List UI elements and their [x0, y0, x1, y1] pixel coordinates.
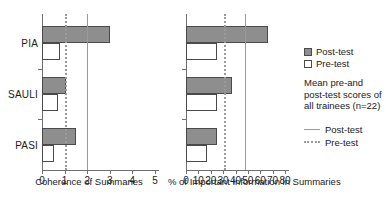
legend-swatch-pre-test-icon: [304, 60, 312, 68]
x-axis-tick: [87, 170, 88, 174]
x-axis-tick: [65, 170, 66, 174]
x-axis-tick: [223, 170, 224, 174]
bar-sauli-pre-test: [186, 94, 217, 111]
x-axis-tick: [132, 170, 133, 174]
legend-line-item-post-test: Post-test: [304, 124, 386, 135]
plot-area-left: 012345: [42, 18, 155, 170]
x-axis-tick: [186, 170, 187, 174]
legend-line-item-pre-test: Pre-test: [304, 137, 386, 148]
legend-dotted-line-icon: [304, 141, 320, 143]
legend-note: Mean pre-and post-test scores of all tra…: [304, 77, 386, 112]
legend-item-post-test: Post-test: [304, 46, 386, 57]
x-axis-title-left: Coherence of Summaries: [0, 176, 178, 187]
x-axis-tick: [110, 170, 111, 174]
legend-reference-lines: Post-test Pre-test: [304, 124, 386, 148]
reference-line-solid: [87, 14, 88, 170]
bar-pasi-post-test: [186, 128, 217, 145]
legend-line-label-post-test: Post-test: [325, 124, 363, 135]
bar-sauli-post-test: [42, 77, 66, 94]
category-label-sauli: SAULI: [0, 89, 38, 100]
y-axis-tick: [38, 119, 42, 120]
bar-pia-pre-test: [42, 43, 60, 60]
bar-pasi-post-test: [42, 128, 76, 145]
category-label-pasi: PASI: [0, 140, 38, 151]
x-axis-tick: [260, 170, 261, 174]
x-axis-tick: [236, 170, 237, 174]
figure: PIA SAULI PASI 012345 Coherence of Summa…: [0, 0, 386, 218]
bar-pia-pre-test: [186, 43, 217, 60]
legend-item-pre-test: Pre-test: [304, 58, 386, 69]
x-axis-tick: [248, 170, 249, 174]
legend: Post-test Pre-test Mean pre-and post-tes…: [304, 46, 386, 150]
reference-line-dotted: [224, 14, 226, 170]
x-axis-tick: [155, 170, 156, 174]
y-axis-tick: [182, 69, 186, 70]
legend-label-post-test: Post-test: [316, 46, 354, 57]
bar-pia-post-test: [42, 26, 110, 43]
x-axis-line: [42, 170, 159, 171]
bar-pia-post-test: [186, 26, 268, 43]
chart-panel-left: PIA SAULI PASI 012345 Coherence of Summa…: [0, 0, 178, 200]
x-axis-title-right: % of Important Information in Summaries: [168, 176, 318, 187]
x-axis-tick: [285, 170, 286, 174]
category-label-pia: PIA: [0, 38, 38, 49]
bar-pasi-pre-test: [42, 145, 54, 162]
x-axis-tick: [211, 170, 212, 174]
y-axis-tick: [38, 69, 42, 70]
reference-line-solid: [245, 14, 246, 170]
reference-line-dotted: [65, 14, 67, 170]
x-axis-tick: [42, 170, 43, 174]
chart-panel-right: 01020304050607080 % of Important Informa…: [176, 0, 300, 200]
y-axis-tick: [182, 119, 186, 120]
x-axis-tick: [198, 170, 199, 174]
bar-sauli-pre-test: [42, 94, 58, 111]
legend-label-pre-test: Pre-test: [316, 58, 349, 69]
legend-solid-line-icon: [304, 129, 320, 130]
plot-area-right: 01020304050607080: [186, 18, 285, 170]
x-axis-tick: [273, 170, 274, 174]
legend-line-label-pre-test: Pre-test: [325, 137, 358, 148]
legend-swatch-post-test-icon: [304, 48, 312, 56]
bar-pasi-pre-test: [186, 145, 207, 162]
